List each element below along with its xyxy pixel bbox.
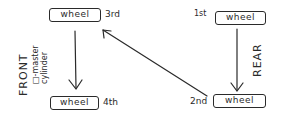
order-label-1st: 1st [194, 9, 206, 19]
wheel-label: wheel [60, 97, 89, 107]
wheel-label: wheel [226, 12, 255, 22]
wheel-box-rear-bottom: wheel [213, 94, 266, 108]
arrow-diagonal [103, 30, 207, 96]
wheel-box-front-top: wheel [49, 8, 101, 22]
wheel-box-rear-top: wheel [215, 11, 266, 25]
master-cylinder-label: □-master cylinder [31, 40, 49, 84]
front-label: FRONT [17, 53, 30, 96]
rear-label: REAR [251, 43, 264, 77]
wheel-box-front-bottom: wheel [50, 96, 99, 110]
order-label-2nd: 2nd [190, 96, 207, 106]
wheel-label: wheel [225, 95, 254, 105]
wheel-label: wheel [60, 9, 89, 19]
order-label-4th: 4th [103, 97, 118, 107]
order-label-3rd: 3rd [105, 9, 120, 19]
arrow-front-down [75, 31, 76, 88]
